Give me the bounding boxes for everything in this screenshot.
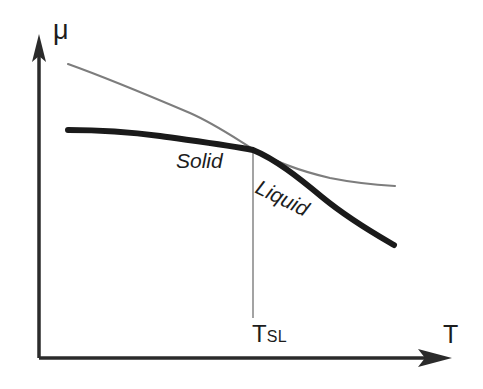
x-axis-label: T bbox=[443, 322, 458, 347]
y-axis-label: μ bbox=[53, 17, 69, 44]
transition-temperature-subscript: SL bbox=[267, 328, 287, 345]
solid-curve-label: Solid bbox=[176, 150, 223, 171]
transition-temperature-symbol: T bbox=[252, 320, 267, 347]
solid-curve bbox=[68, 130, 394, 245]
chemical-potential-vs-temperature-diagram: μ T TSL Solid Liquid bbox=[0, 0, 483, 389]
transition-temperature-label: TSL bbox=[252, 322, 287, 346]
liquid-curve bbox=[68, 64, 395, 186]
axes-group bbox=[32, 34, 452, 367]
plot-canvas bbox=[0, 0, 483, 389]
